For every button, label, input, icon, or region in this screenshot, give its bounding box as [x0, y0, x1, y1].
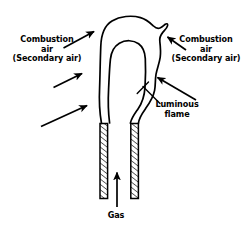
combustion-air-arrow-low-left [41, 106, 87, 127]
label-combustion-air-right-line3: (Secondary air) [168, 54, 244, 64]
label-combustion-air-left: Combustion air (Secondary air) [8, 35, 86, 64]
burner-tube-wall-right [131, 124, 139, 199]
luminous-flame-leader-tick [137, 82, 148, 94]
burner-tube-assembly [100, 124, 138, 199]
label-gas: Gas [101, 211, 131, 221]
combustion-air-arrow-mid-left [54, 74, 83, 88]
burner-flame-diagram: Combustion air (Secondary air) Combustio… [0, 0, 248, 235]
label-luminous-flame-line2: flame [146, 110, 208, 120]
label-luminous-flame: Luminous flame [146, 100, 208, 119]
label-combustion-air-right: Combustion air (Secondary air) [168, 35, 244, 64]
label-gas-line1: Gas [101, 211, 131, 221]
inner-flame-cone [108, 41, 145, 123]
combustion-air-arrow-mid-right [158, 78, 197, 101]
burner-tube-wall-left [100, 124, 108, 199]
label-combustion-air-left-line3: (Secondary air) [8, 54, 86, 64]
